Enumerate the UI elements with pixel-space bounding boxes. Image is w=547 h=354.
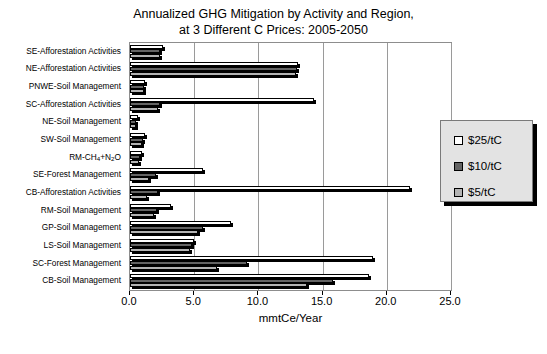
bar-group	[130, 61, 451, 79]
bar-5tc	[130, 213, 154, 217]
bar-25tc	[130, 168, 203, 172]
legend-label: $5/tC	[468, 186, 496, 198]
x-tick-label: 25.0	[430, 295, 470, 307]
bar-group	[130, 96, 451, 114]
bar-10tc	[130, 155, 140, 159]
bar-group	[130, 219, 451, 237]
bar-5tc	[130, 124, 136, 128]
bar-group	[130, 149, 451, 167]
x-axis-title: mmtCe/Year	[129, 312, 452, 324]
legend-swatch	[454, 188, 463, 197]
bar-10tc	[130, 102, 160, 106]
y-axis-label: SC-Afforestation Activities	[26, 99, 121, 109]
bar-10tc	[130, 85, 144, 89]
x-axis-tick-labels: 0.05.010.015.020.025.0	[0, 295, 547, 309]
bar-group	[130, 43, 451, 61]
y-axis-label: PNWE-Soil Management	[29, 81, 121, 91]
x-tick-label: 10.0	[237, 295, 277, 307]
bar-25tc	[130, 98, 314, 102]
bar-25tc	[130, 115, 138, 119]
y-axis-label: RM-Soil Management	[41, 205, 121, 215]
legend-item[interactable]: $10/tC	[454, 159, 502, 173]
bar-25tc	[130, 62, 298, 66]
bar-10tc	[130, 67, 297, 71]
bar-group	[130, 114, 451, 132]
bar-group	[130, 184, 451, 202]
y-axis-label: CB-Afforestation Activities	[26, 187, 121, 197]
bar-5tc	[130, 195, 147, 199]
y-axis-label: SW-Soil Management	[40, 134, 121, 144]
x-tick-label: 20.0	[366, 295, 406, 307]
y-axis-label: LS-Soil Management	[44, 240, 121, 250]
y-axis-category-labels: SE-Afforestation ActivitiesNE-Afforestat…	[0, 42, 126, 291]
bar-5tc	[130, 142, 142, 146]
bar-5tc	[130, 283, 307, 287]
y-axis-label: NE-Afforestation Activities	[26, 63, 121, 73]
y-axis-label: NE-Soil Management	[42, 116, 121, 126]
bar-25tc	[130, 80, 145, 84]
bar-10tc	[130, 226, 203, 230]
bar-25tc	[130, 133, 145, 137]
legend-box: $25/tC$10/tC$5/tC	[440, 120, 533, 202]
y-axis-label: GP-Soil Management	[42, 222, 121, 232]
x-tick-label: 15.0	[302, 295, 342, 307]
bar-rows	[130, 43, 451, 290]
legend-swatch	[454, 136, 463, 145]
y-axis-label: RM-CH4+N2O	[69, 152, 121, 164]
legend-item[interactable]: $25/tC	[454, 133, 502, 147]
bar-10tc	[130, 243, 192, 247]
bar-5tc	[130, 89, 144, 93]
bar-group	[130, 272, 451, 290]
bar-group	[130, 237, 451, 255]
bar-10tc	[130, 279, 333, 283]
legend-swatch	[454, 162, 463, 171]
bar-10tc	[130, 261, 247, 265]
bar-group	[130, 255, 451, 273]
legend-label: $10/tC	[468, 160, 502, 172]
y-axis-label: SE-Forest Management	[33, 169, 121, 179]
bar-5tc	[130, 177, 149, 181]
bar-25tc	[130, 186, 410, 190]
chart-title: Annualized GHG Mitigation by Activity an…	[0, 6, 547, 38]
y-axis-label: SE-Afforestation Activities	[26, 46, 121, 56]
bar-25tc	[130, 151, 142, 155]
bar-25tc	[130, 221, 231, 225]
bar-5tc	[130, 248, 190, 252]
bar-5tc	[130, 72, 296, 76]
plot-area	[129, 42, 452, 291]
y-axis-label: CB-Soil Management	[42, 275, 121, 285]
bar-5tc	[130, 54, 160, 58]
bar-10tc	[130, 120, 136, 124]
bar-25tc	[130, 274, 369, 278]
bar-group	[130, 78, 451, 96]
bar-25tc	[130, 256, 373, 260]
bar-10tc	[130, 49, 160, 53]
bar-group	[130, 202, 451, 220]
bar-10tc	[130, 190, 158, 194]
bar-10tc	[130, 173, 156, 177]
x-tick-label: 0.0	[109, 295, 149, 307]
legend-item[interactable]: $5/tC	[454, 185, 496, 199]
bar-25tc	[130, 204, 171, 208]
bar-5tc	[130, 266, 217, 270]
bar-5tc	[130, 160, 139, 164]
bar-5tc	[130, 230, 198, 234]
bar-group	[130, 131, 451, 149]
x-tick-label: 5.0	[173, 295, 213, 307]
legend-label: $25/tC	[468, 134, 502, 146]
chart-title-line-1: Annualized GHG Mitigation by Activity an…	[0, 6, 547, 22]
y-axis-label: SC-Forest Management	[32, 258, 121, 268]
bar-5tc	[130, 107, 158, 111]
chart-title-line-2: at 3 Different C Prices: 2005-2050	[0, 22, 547, 38]
bar-10tc	[130, 208, 157, 212]
bar-group	[130, 167, 451, 185]
bar-25tc	[130, 45, 163, 49]
bar-10tc	[130, 138, 143, 142]
chart-root: Annualized GHG Mitigation by Activity an…	[0, 0, 547, 354]
bar-25tc	[130, 239, 194, 243]
